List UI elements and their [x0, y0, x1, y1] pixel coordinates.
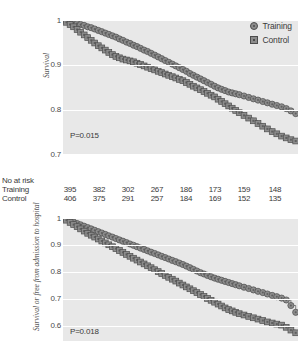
legend-label-training: Training: [262, 21, 292, 31]
risk-value: 159: [233, 185, 255, 194]
gridline-0.9: [63, 245, 298, 246]
risk-row-label: Control: [2, 194, 26, 203]
risk-value: 173: [204, 185, 226, 194]
risk-value: 375: [88, 194, 110, 203]
survival-chart-ytick-1: 1: [39, 16, 61, 25]
survival-free-admission-plot-area: [63, 218, 298, 341]
risk-value: 395: [59, 185, 81, 194]
risk-value: 184: [175, 194, 197, 203]
gridline-0.8: [63, 272, 298, 273]
survival-chart-pvalue: P=0.015: [70, 131, 99, 140]
survival-chart-ytick-0.9: 0.9: [39, 60, 61, 69]
gridline-0.9: [63, 65, 298, 66]
risk-value: 302: [117, 185, 139, 194]
survival-free-admission-ytick-0.9: 0.9: [39, 240, 61, 249]
legend-label-control: Control: [262, 35, 289, 45]
survival-chart-ytick-0.8: 0.8: [39, 105, 61, 114]
risk-value: 152: [233, 194, 255, 203]
risk-value: 257: [146, 194, 168, 203]
survival-free-admission-ytick-0.8: 0.8: [39, 267, 61, 276]
circle-marker-icon: [250, 22, 258, 30]
gridline-0.8: [63, 110, 298, 111]
survival-free-admission-curves: [63, 218, 298, 341]
survival-free-admission-ytick-1: 1: [39, 214, 61, 223]
survival-free-admission-ytick-0.6: 0.6: [39, 321, 61, 330]
legend-item-control: Control: [250, 34, 292, 45]
gridline-0.7: [63, 154, 298, 155]
risk-value: 406: [59, 194, 81, 203]
risk-table-title: No at risk: [2, 176, 34, 185]
chart-legend: Training Control: [250, 20, 292, 48]
survival-chart-ytick-0.7: 0.7: [39, 150, 61, 159]
risk-value: 135: [264, 194, 286, 203]
survival-free-admission-chart-panel: Survival or free from admission to hospi…: [0, 205, 298, 336]
gridline-1: [63, 218, 298, 219]
risk-value: 148: [264, 185, 286, 194]
square-marker-icon: [250, 36, 258, 44]
risk-value: 382: [88, 185, 110, 194]
survival-free-admission-ytick-0.7: 0.7: [39, 294, 61, 303]
survival-free-admission-pvalue: P=0.018: [70, 327, 99, 336]
legend-item-training: Training: [250, 20, 292, 31]
risk-table-row-control: Control 406 375 291 257 184 169 152 135: [2, 194, 296, 203]
risk-table-row-training: Training 395 382 302 267 186 173 159 148: [2, 185, 296, 194]
risk-row-label: Training: [2, 185, 29, 194]
risk-value: 169: [204, 194, 226, 203]
risk-value: 186: [175, 185, 197, 194]
risk-value: 291: [117, 194, 139, 203]
risk-value: 267: [146, 185, 168, 194]
gridline-0.7: [63, 299, 298, 300]
survival-chart-panel: Survival 1 0.9 0.8 0.7 P=0.015 Training …: [0, 0, 298, 170]
